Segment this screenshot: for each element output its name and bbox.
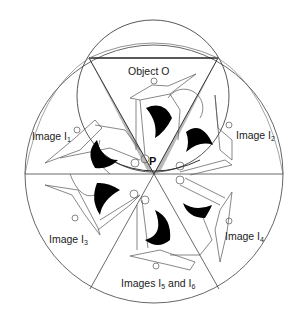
small-circle-center-1	[131, 159, 139, 167]
crescent-object	[146, 106, 172, 138]
label-object-o: Object O	[128, 65, 169, 77]
label-image-i4: Image I4	[225, 230, 264, 243]
kaleidoscope-mirror-diagram: Object O Image I1 Image I2 Image I3 Imag…	[0, 0, 296, 317]
crescent-image4	[183, 203, 212, 218]
label-image-i1: Image I1	[32, 130, 71, 143]
crescent-image2	[186, 128, 213, 152]
label-image-i2: Image I2	[236, 129, 275, 142]
label-images-i5-i6: Images I5 and I6	[121, 277, 195, 290]
label-image-i3: Image I3	[49, 233, 88, 246]
crescent-image5	[145, 210, 170, 245]
label-point-p: P	[149, 155, 156, 167]
